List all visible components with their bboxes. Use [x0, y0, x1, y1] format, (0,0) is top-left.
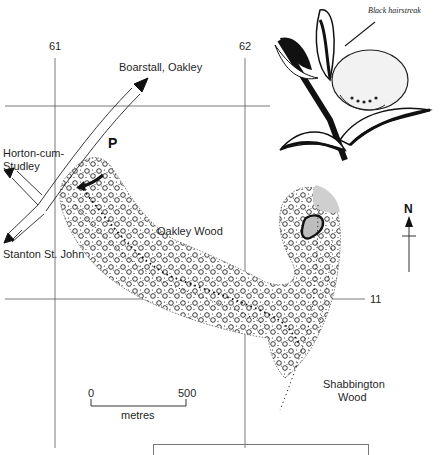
road-label-horton-line1: Horton-cum- — [3, 147, 64, 159]
wood-label-oakley: Oakley Wood — [157, 225, 223, 237]
road-label-boarstall: Boarstall, Oakley — [119, 61, 202, 73]
arrow-boarstall-icon — [134, 78, 148, 92]
scale-end-label: 500 — [178, 387, 196, 399]
wood-label-shabbington-line1: Shabbington — [323, 378, 385, 390]
grid-easting-62: 62 — [239, 40, 251, 52]
scale-unit-label: metres — [121, 409, 155, 421]
road-label-stanton: Stanton St. John — [3, 248, 84, 260]
parking-marker: P — [108, 135, 117, 151]
woodland-area — [60, 158, 340, 410]
wood-label-shabbington-line2: Wood — [338, 391, 367, 403]
grid-easting-61: 61 — [49, 40, 61, 52]
grid-northing-11: 11 — [370, 293, 381, 305]
north-arrow-icon — [402, 216, 416, 272]
illustration-caption: Black hairstreak — [368, 6, 421, 15]
scale-bar — [91, 399, 186, 406]
butterfly-on-twig-illustration — [275, 10, 430, 160]
north-label: N — [404, 202, 413, 216]
bottom-frame-box — [153, 444, 369, 455]
scale-start-label: 0 — [88, 387, 94, 399]
road-label-horton-line2: Studley — [3, 160, 40, 172]
